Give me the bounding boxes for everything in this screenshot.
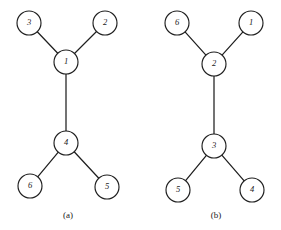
nodes-layer: 321465612354	[17, 11, 264, 202]
graph-edge	[222, 155, 244, 181]
captions-layer: (a)(b)	[63, 210, 221, 220]
graph-node[interactable]: 5	[95, 175, 119, 199]
graph-node[interactable]: 4	[54, 131, 78, 155]
graph-edge	[37, 32, 57, 54]
node-label: 1	[64, 56, 68, 66]
graph-node[interactable]: 6	[18, 174, 42, 198]
graph-node[interactable]: 5	[166, 178, 190, 202]
graph-edge	[38, 152, 59, 177]
graph-node[interactable]: 1	[54, 50, 78, 74]
graph-node[interactable]: 3	[202, 134, 226, 158]
panel-caption: (b)	[211, 210, 222, 220]
graph-edge	[186, 155, 207, 180]
node-label: 5	[176, 184, 180, 194]
graph-node[interactable]: 2	[202, 52, 226, 76]
graph-node[interactable]: 4	[240, 178, 264, 202]
graph-edge	[74, 152, 99, 178]
graph-node[interactable]: 1	[239, 11, 263, 35]
graph-node[interactable]: 6	[165, 11, 189, 35]
graph-edge	[74, 31, 96, 53]
panel-caption: (a)	[63, 210, 73, 220]
graph-edge	[222, 32, 243, 55]
node-label: 3	[211, 140, 216, 150]
graph-node[interactable]: 3	[17, 11, 41, 35]
node-label: 1	[249, 17, 253, 27]
node-label: 5	[105, 181, 109, 191]
node-label: 3	[26, 17, 31, 27]
graph-diagram-canvas: 321465612354 (a)(b)	[0, 0, 281, 230]
graph-edge	[185, 32, 206, 55]
graph-node[interactable]: 2	[93, 11, 117, 35]
figure-container: 321465612354 (a)(b)	[0, 0, 281, 230]
